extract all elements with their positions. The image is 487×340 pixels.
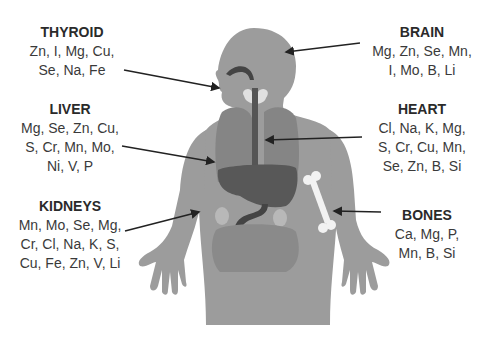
heart-minerals-line: S, Cr, Cu, Mn, bbox=[362, 138, 482, 157]
kidney-left bbox=[215, 207, 229, 225]
kidney-right bbox=[273, 209, 287, 227]
brain-title: BRAIN bbox=[362, 23, 482, 42]
brain-minerals-line: I, Mo, B, Li bbox=[362, 61, 482, 80]
kidneys-minerals-line: Mn, Mo, Se, Mg, bbox=[8, 216, 132, 235]
kidneys-minerals-line: Cu, Fe, Zn, V, Li bbox=[8, 254, 132, 273]
kidneys-label: KIDNEYS Mn, Mo, Se, Mg, Cr, Cl, Na, K, S… bbox=[8, 197, 132, 273]
intestines bbox=[212, 224, 299, 272]
trachea bbox=[252, 88, 258, 170]
bones-label: BONES Ca, Mg, P, Mn, B, Si bbox=[382, 206, 472, 263]
liver-title: LIVER bbox=[10, 100, 130, 119]
liver-minerals-line: Ni, V, P bbox=[10, 157, 130, 176]
liver-minerals-line: Mg, Se, Zn, Cu, bbox=[10, 119, 130, 138]
kidneys-title: KIDNEYS bbox=[8, 197, 132, 216]
bones-minerals-line: Mn, B, Si bbox=[382, 244, 472, 263]
heart-minerals-line: Se, Zn, B, Si bbox=[362, 157, 482, 176]
heart-minerals-line: Cl, Na, K, Mg, bbox=[362, 119, 482, 138]
bones-minerals-line: Ca, Mg, P, bbox=[382, 225, 472, 244]
thyroid-minerals-line: Zn, I, Mg, Cu, bbox=[12, 42, 132, 61]
thyroid-minerals-line: Se, Na, Fe bbox=[12, 61, 132, 80]
heart-title: HEART bbox=[362, 100, 482, 119]
thyroid-title: THYROID bbox=[12, 23, 132, 42]
kidneys-minerals-line: Cr, Cl, Na, K, S, bbox=[8, 235, 132, 254]
brain-label: BRAIN Mg, Zn, Se, Mn, I, Mo, B, Li bbox=[362, 23, 482, 80]
heart-label: HEART Cl, Na, K, Mg, S, Cr, Cu, Mn, Se, … bbox=[362, 100, 482, 176]
liver-label: LIVER Mg, Se, Zn, Cu, S, Cr, Mn, Mo, Ni,… bbox=[10, 100, 130, 176]
liver-minerals-line: S, Cr, Mn, Mo, bbox=[10, 138, 130, 157]
bones-title: BONES bbox=[382, 206, 472, 225]
brain-minerals-line: Mg, Zn, Se, Mn, bbox=[362, 42, 482, 61]
thyroid-label: THYROID Zn, I, Mg, Cu, Se, Na, Fe bbox=[12, 23, 132, 80]
mineral-body-diagram: THYROID Zn, I, Mg, Cu, Se, Na, Fe LIVER … bbox=[0, 0, 487, 340]
